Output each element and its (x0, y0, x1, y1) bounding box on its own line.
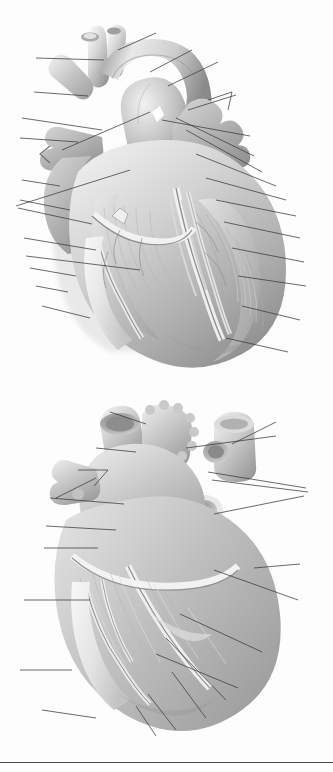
posterior-heart-illustration (0, 0, 333, 772)
footer-divider (0, 762, 333, 763)
posterior-heart-figure (0, 0, 333, 772)
worksheet-page (0, 0, 333, 772)
